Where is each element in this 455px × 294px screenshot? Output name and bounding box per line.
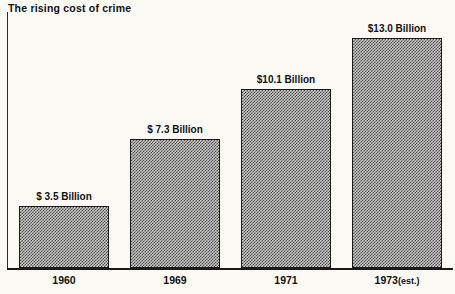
axis-baseline <box>7 268 453 270</box>
bar-value-label-1971: $10.1 Billion <box>241 74 331 85</box>
bar-value-label-1969: $ 7.3 Billion <box>130 124 220 135</box>
bar-year-label-1973: 1973(est.) <box>352 274 442 286</box>
bar-year-label-1971: 1971 <box>241 274 331 286</box>
bar-year-label-1969: 1969 <box>130 274 220 286</box>
bar-year-label-1960: 1960 <box>19 274 109 286</box>
bar-1969[interactable] <box>130 139 220 268</box>
year-main-1960: 1960 <box>52 274 75 286</box>
year-main-1971: 1971 <box>274 274 297 286</box>
axis-left-rule <box>7 12 8 269</box>
bar-1960[interactable] <box>19 206 109 268</box>
year-main-1969: 1969 <box>163 274 186 286</box>
bar-value-label-1960: $ 3.5 Billion <box>19 191 109 202</box>
year-main-1973: 1973 <box>375 274 398 286</box>
bar-value-label-1973: $13.0 Billion <box>352 23 442 34</box>
year-suffix-1973: (est.) <box>398 276 420 286</box>
bar-chart-figure: The rising cost of crime $ 3.5 Billion 1… <box>0 0 455 294</box>
bar-1973-est[interactable] <box>352 38 442 268</box>
plot-area: $ 3.5 Billion 1960 $ 7.3 Billion 1969 $1… <box>0 0 455 294</box>
bar-1971[interactable] <box>241 89 331 268</box>
